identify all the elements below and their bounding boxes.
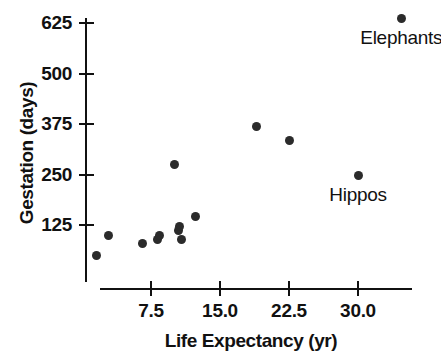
y-axis-tick xyxy=(79,22,94,24)
data-point xyxy=(155,231,164,240)
x-axis-tick-label: 22.5 xyxy=(271,300,307,322)
data-point xyxy=(354,171,363,180)
y-axis-title: Gestation (days) xyxy=(16,58,38,248)
data-point xyxy=(175,222,184,231)
y-axis-tick xyxy=(79,123,94,125)
data-point xyxy=(177,235,186,244)
x-axis-tick-label: 30.0 xyxy=(340,300,376,322)
data-point xyxy=(397,14,406,23)
data-point xyxy=(138,239,147,248)
data-point xyxy=(170,160,179,169)
y-axis-tick xyxy=(79,224,94,226)
x-axis-title: Life Expectancy (yr) xyxy=(128,330,374,352)
x-axis-tick xyxy=(219,281,221,296)
x-axis-tick-label: 7.5 xyxy=(138,300,164,322)
y-axis-tick xyxy=(79,174,94,176)
data-point xyxy=(104,231,113,240)
data-point xyxy=(285,136,294,145)
x-axis-tick xyxy=(150,281,152,296)
data-point xyxy=(92,251,101,260)
y-axis-tick xyxy=(79,73,94,75)
x-axis-line xyxy=(100,288,412,290)
point-label-hippos: Hippos xyxy=(329,184,386,206)
y-axis-line xyxy=(85,18,87,282)
scatter-plot-figure: 125250375500625 7.515.022.530.0 HipposEl… xyxy=(0,0,441,354)
x-axis-tick-label: 15.0 xyxy=(202,300,238,322)
data-point xyxy=(191,212,200,221)
data-point xyxy=(252,122,261,131)
y-axis-tick-label: 625 xyxy=(18,12,72,34)
point-label-elephants: Elephants xyxy=(360,27,441,49)
x-axis-tick xyxy=(288,281,290,296)
x-axis-tick xyxy=(357,281,359,296)
